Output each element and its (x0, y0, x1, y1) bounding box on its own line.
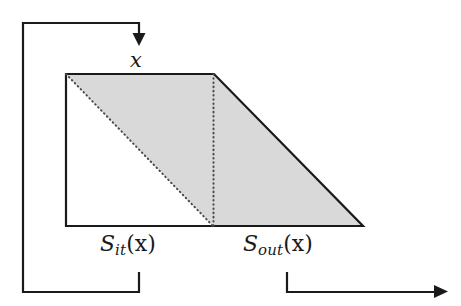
output-arrow-line (287, 272, 437, 292)
label-s-out-subscript: out (258, 241, 283, 259)
label-s-out-arg: (x) (283, 231, 313, 256)
input-arrowhead-icon (133, 33, 146, 46)
diagram-svg (0, 0, 461, 306)
label-x: x (130, 50, 142, 71)
label-s-it-symbol: S (100, 231, 115, 256)
label-s-it-subscript: it (115, 241, 126, 259)
label-s-it-arg: (x) (126, 231, 156, 256)
label-s-out-symbol: S (243, 231, 258, 256)
label-x-text: x (130, 48, 142, 72)
diagram-canvas: x Sit(x) Sout(x) (0, 0, 461, 306)
label-s-it: Sit(x) (100, 233, 156, 258)
label-s-out: Sout(x) (243, 233, 313, 258)
input-arrow-line (23, 23, 139, 36)
output-arrowhead-icon (434, 285, 448, 298)
